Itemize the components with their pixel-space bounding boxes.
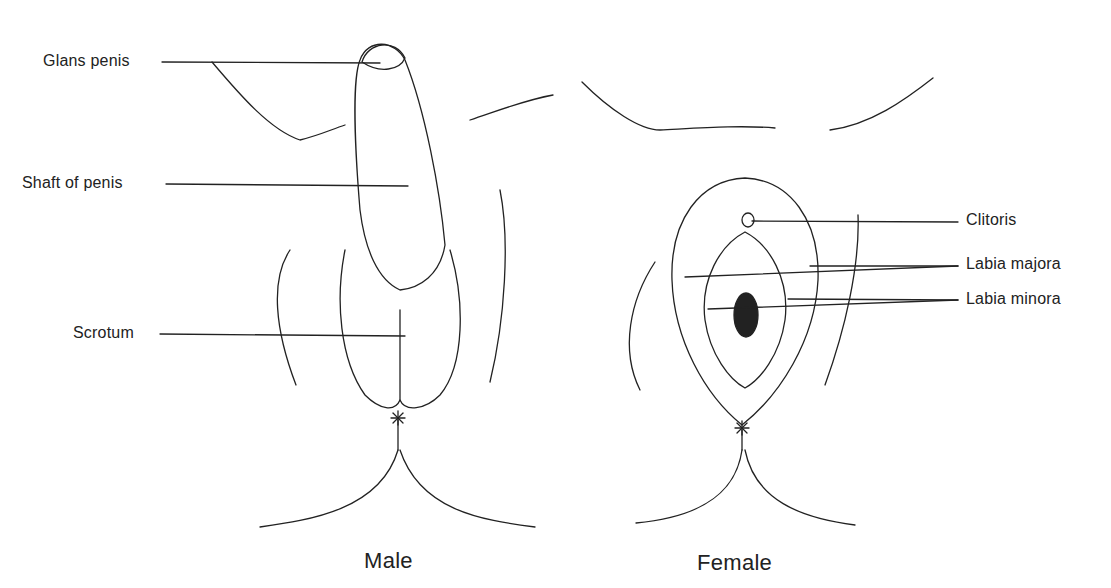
female-lower-right (745, 450, 855, 525)
female-thigh-contour-right (830, 78, 933, 130)
leader-scrotum (160, 334, 405, 336)
label-scrotum: Scrotum (73, 324, 134, 342)
leader-shaft (166, 184, 408, 186)
male-leader-lines (160, 62, 408, 336)
caption-female: Female (697, 550, 772, 576)
female-opening-shape (734, 293, 758, 337)
female-leader-lines (685, 221, 958, 309)
leader-clitoris (752, 221, 958, 222)
female-figure (582, 78, 933, 525)
male-lower-left (260, 450, 398, 527)
female-lower-left (636, 450, 742, 523)
female-perineum-mark (735, 421, 749, 435)
label-labia-minora: Labia minora (966, 290, 1061, 308)
male-thigh-contour-right (470, 95, 553, 120)
label-glans-penis: Glans penis (43, 52, 130, 70)
label-shaft-of-penis: Shaft of penis (22, 174, 123, 192)
leader-glans (162, 62, 380, 63)
female-clitoris-shape (742, 213, 754, 227)
female-hip-left (629, 262, 655, 390)
caption-male: Male (364, 548, 413, 574)
male-hip-left (277, 250, 296, 385)
label-labia-majora: Labia majora (966, 255, 1061, 273)
leader-labia-majora-b (685, 266, 958, 277)
male-thigh-contour-left (212, 62, 345, 140)
male-perineum-mark (391, 411, 405, 425)
female-thigh-contour-left (582, 82, 775, 130)
male-hip-right (490, 190, 505, 382)
male-shaft-outline (355, 44, 445, 290)
male-lower-right (400, 450, 535, 527)
male-figure (212, 44, 553, 527)
label-clitoris: Clitoris (966, 211, 1017, 229)
leader-labia-minora-a (788, 299, 958, 300)
diagram-artwork (0, 0, 1111, 588)
